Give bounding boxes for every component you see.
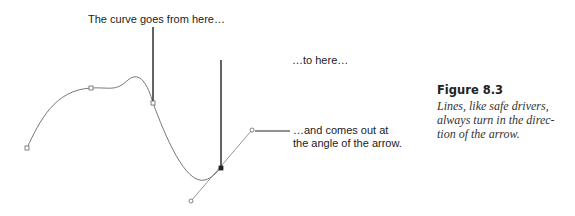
anchor-point-end (219, 166, 223, 170)
handle-point-out (250, 128, 254, 132)
bezier-curve (27, 77, 221, 181)
anchor-point-selected (151, 101, 155, 105)
figure-caption: Figure 8.3 Lines, like safe drivers, alw… (437, 83, 572, 141)
figure-title: Figure 8.3 (437, 83, 572, 97)
anchor-point-start (25, 146, 29, 150)
handle-point-in (189, 199, 193, 203)
angle-annotation-line2: the angle of the arrow. (293, 137, 402, 150)
anchor-point-peak (89, 86, 93, 90)
end-annotation: …to here… (292, 54, 348, 67)
start-annotation: The curve goes from here… (88, 13, 225, 26)
figure-description: Lines, like safe drivers, always turn in… (437, 99, 572, 141)
angle-annotation-line1: …and comes out at (293, 124, 388, 137)
